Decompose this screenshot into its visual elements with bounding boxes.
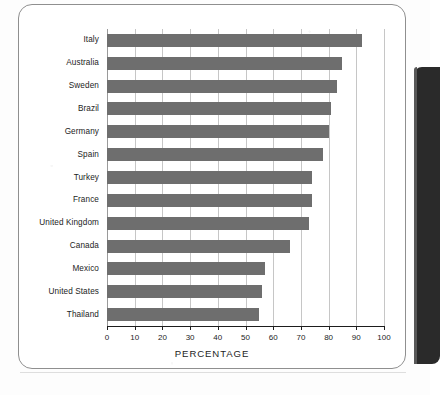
- category-label: Thailand: [67, 309, 99, 321]
- category-label: Mexico: [72, 263, 99, 275]
- plot-inner: [107, 29, 384, 326]
- bar: [107, 285, 262, 298]
- x-tick-label: 80: [317, 333, 341, 342]
- category-label: Spain: [78, 149, 99, 161]
- x-tick-label: 100: [372, 333, 396, 342]
- category-axis-labels: ItalyAustraliaSwedenBrazilGermanySpainTu…: [18, 29, 103, 326]
- category-label: Turkey: [74, 172, 99, 184]
- category-label: Germany: [65, 126, 99, 138]
- category-label: United States: [49, 286, 99, 298]
- bar: [107, 194, 312, 207]
- x-tick-label: 30: [178, 333, 202, 342]
- x-tick: [329, 326, 330, 330]
- x-tick: [356, 326, 357, 330]
- x-tick-label: 90: [344, 333, 368, 342]
- bar: [107, 102, 331, 115]
- x-tick: [107, 326, 108, 330]
- x-tick-label: 40: [206, 333, 230, 342]
- right-dark-panel-highlight: [414, 67, 417, 364]
- x-tick: [135, 326, 136, 330]
- bar: [107, 308, 259, 321]
- gridline-80: [329, 29, 330, 326]
- bar: [107, 125, 329, 138]
- bar: [107, 148, 323, 161]
- bar: [107, 80, 337, 93]
- bar: [107, 240, 290, 253]
- category-label: United Kingdom: [39, 217, 99, 229]
- x-tick-label: 70: [289, 333, 313, 342]
- plot-area: [107, 29, 384, 326]
- category-label: Canada: [70, 240, 99, 252]
- x-tick: [301, 326, 302, 330]
- x-tick: [384, 326, 385, 330]
- x-tick: [273, 326, 274, 330]
- x-tick-label: 10: [123, 333, 147, 342]
- x-tick: [218, 326, 219, 330]
- x-tick-label: 60: [261, 333, 285, 342]
- bar: [107, 171, 312, 184]
- x-axis-title: PERCENTAGE: [18, 348, 406, 359]
- bar: [107, 34, 362, 47]
- category-label: France: [73, 194, 99, 206]
- category-label: Sweden: [69, 80, 99, 92]
- bar: [107, 262, 265, 275]
- bar: [107, 217, 309, 230]
- category-label: Italy: [83, 34, 99, 46]
- right-dark-panel: [414, 67, 440, 364]
- gridline-100: [384, 29, 385, 326]
- category-label: Brazil: [78, 103, 99, 115]
- x-tick: [190, 326, 191, 330]
- x-tick: [246, 326, 247, 330]
- bar: [107, 57, 342, 70]
- x-tick-label: 0: [95, 333, 119, 342]
- card-bottom-edge: [20, 372, 406, 373]
- category-label: Australia: [66, 57, 99, 69]
- x-tick: [162, 326, 163, 330]
- x-tick-label: 20: [150, 333, 174, 342]
- bar-chart: ItalyAustraliaSwedenBrazilGermanySpainTu…: [18, 4, 406, 369]
- gridline-90: [356, 29, 357, 326]
- x-tick-label: 50: [234, 333, 258, 342]
